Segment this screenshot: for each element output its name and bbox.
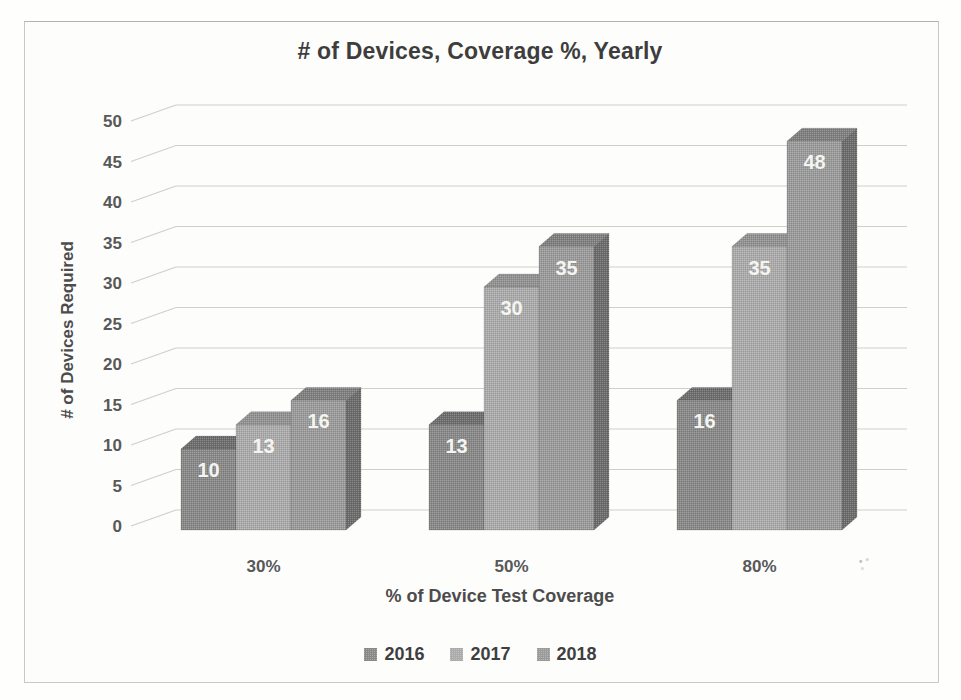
x-axis-title: % of Device Test Coverage [130,586,870,607]
legend-label-2017: 2017 [470,644,510,665]
bar-value-label: 13 [445,435,467,457]
legend: 201620172018 [0,644,961,665]
bar-value-label: 16 [307,410,329,432]
x-category-label: 50% [494,557,528,576]
x-category-label: 80% [742,557,776,576]
bar-value-label: 10 [197,459,219,481]
legend-swatch-2016 [364,648,377,661]
legend-item-2018: 2018 [537,644,597,665]
y-tick-label: 35 [103,234,122,253]
legend-swatch-2017 [450,648,463,661]
legend-item-2017: 2017 [450,644,510,665]
y-tick-label: 0 [113,517,122,536]
bar-value-label: 16 [693,410,715,432]
bar-2018-80% [787,128,857,530]
y-tick-label: 15 [103,396,122,415]
legend-label-2016: 2016 [384,644,424,665]
y-axis-title: # of Devices Required [58,190,78,470]
x-category-label: 30% [246,557,280,576]
y-tick-labels: 05101520253035404550 [103,112,122,536]
y-tick-label: 50 [103,112,122,131]
y-tick-label: 45 [103,153,122,172]
bar-value-label: 35 [555,257,577,279]
bars [181,128,857,530]
bar-value-label: 30 [500,297,522,319]
bar-value-label: 13 [252,435,274,457]
y-tick-label: 20 [103,355,122,374]
y-tick-label: 25 [103,315,122,334]
x-category-labels: 30%50%80% [246,557,776,576]
legend-swatch-2018 [537,648,550,661]
legend-item-2016: 2016 [364,644,424,665]
y-tick-label: 30 [103,274,122,293]
bar-value-label: 35 [748,257,770,279]
bar-2018-30% [291,387,361,530]
bar-value-label: 48 [803,151,825,173]
page: # of Devices, Coverage %, Yearly 0510152… [0,0,961,700]
y-tick-label: 5 [113,477,122,496]
y-tick-label: 10 [103,436,122,455]
legend-label-2018: 2018 [557,644,597,665]
scan-smudge [856,556,872,574]
y-tick-label: 40 [103,193,122,212]
